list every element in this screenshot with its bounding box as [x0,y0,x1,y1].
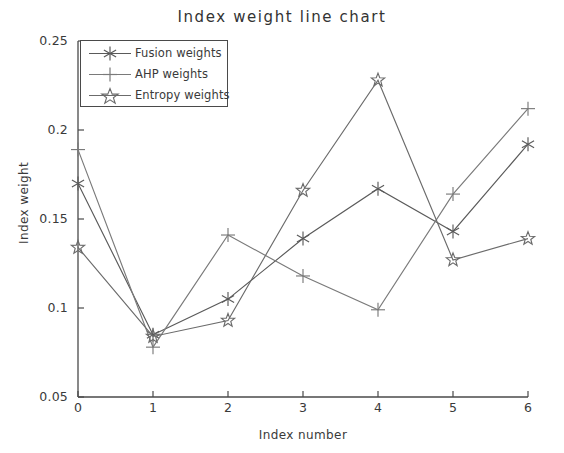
asterisk-icon [87,43,133,64]
legend-item-entropy[interactable]: Entropy weights [85,85,227,106]
series-0 [72,137,534,341]
legend-label-entropy: Entropy weights [135,88,230,102]
legend-item-ahp[interactable]: AHP weights [85,64,227,85]
series-2 [71,73,534,342]
legend-label-ahp: AHP weights [135,67,208,81]
plus-icon [87,64,133,85]
series-layer [71,73,535,354]
legend-item-fusion[interactable]: Fusion weights [85,43,227,64]
series-1 [71,102,535,355]
legend: Fusion weights AHP weights Entropy weigh… [80,40,228,107]
star-icon [87,85,133,106]
chart-figure: Index weight line chart Index weight Ind… [0,0,564,453]
legend-label-fusion: Fusion weights [135,46,222,60]
